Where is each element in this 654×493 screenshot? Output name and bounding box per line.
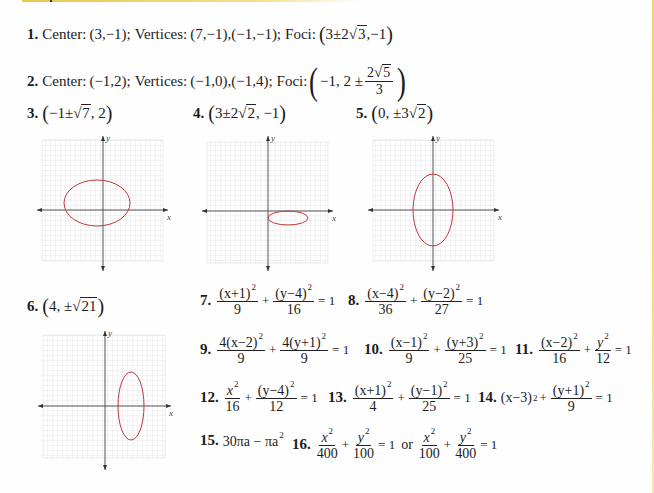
- equals-one: = 1: [454, 390, 471, 406]
- equals-one: = 1: [301, 390, 318, 406]
- equals-one: = 1: [332, 342, 349, 358]
- numerator: (x−4): [367, 286, 398, 301]
- answer-14: 14. (x−3)2 + (y+1)29 = 1: [478, 380, 615, 415]
- denominator: 25: [458, 351, 472, 367]
- radicand: 21: [80, 297, 97, 315]
- expression: 30πa − πa: [223, 434, 278, 449]
- center-label: Center:: [42, 26, 86, 43]
- vertices-label: Vertices:: [135, 73, 187, 90]
- answer-4: 4. ( 3±2 √2 , −1 ): [193, 103, 286, 123]
- vertices-value: (−1,0),(−1,4);: [190, 73, 272, 90]
- left-paren: (: [309, 62, 318, 100]
- left-paren: (: [208, 103, 215, 123]
- graph-5: x y: [360, 130, 505, 280]
- answer-number: 11.: [515, 341, 533, 358]
- denominator: 16: [226, 399, 240, 415]
- or-text: or: [401, 437, 413, 453]
- radicand: 3: [357, 25, 367, 43]
- prefix: 0, ±3: [378, 105, 409, 122]
- suffix: , 2: [91, 105, 106, 122]
- sqrt-icon: √: [349, 26, 357, 43]
- denominator: 400: [317, 446, 338, 462]
- squared-term: (x−3): [501, 390, 532, 406]
- svg-text:x: x: [166, 212, 171, 222]
- exponent: 2: [308, 282, 313, 292]
- answer-number: 12.: [200, 389, 219, 406]
- center-value: (−1,2);: [89, 73, 130, 90]
- denominator: 12: [269, 399, 283, 415]
- exponent: 2: [251, 282, 256, 292]
- exponent: 2: [290, 379, 295, 389]
- denominator: 9: [406, 351, 413, 367]
- left-paren: (: [371, 103, 378, 123]
- foci-prefix: 3±2: [326, 26, 349, 43]
- answer-9: 9. 4(x−2)29 + 4(y+1)29 = 1: [200, 332, 351, 367]
- numerator: (y+3): [447, 335, 478, 350]
- denominator: 25: [422, 399, 436, 415]
- answer-6: 6. ( 4, ± √21 ): [27, 296, 104, 316]
- denominator: 3: [376, 82, 383, 98]
- exponent: 2: [467, 426, 472, 436]
- denominator: 100: [419, 446, 440, 462]
- svg-text:y: y: [435, 133, 440, 143]
- graph-6: x y: [32, 325, 177, 480]
- answer-8: 8. (x−4)236 + (y−2)227 = 1: [348, 283, 485, 318]
- equals-one: = 1: [480, 437, 497, 453]
- graph-3: x y: [30, 130, 175, 280]
- right-paren: ): [397, 62, 406, 100]
- sqrt-icon: √: [72, 298, 80, 315]
- numerator: (y−4): [258, 383, 289, 398]
- numerator: (y−1): [411, 383, 442, 398]
- exponent: 2: [604, 331, 609, 341]
- graph-4: x y: [195, 130, 340, 280]
- numerator: (y+1): [553, 383, 584, 398]
- denominator: 400: [455, 446, 476, 462]
- vertices-value: (7,−1),(−1,−1);: [190, 26, 281, 43]
- answer-1: 1. Center: (3,−1); Vertices: (7,−1),(−1,…: [27, 24, 393, 44]
- answer-number: 13.: [328, 389, 347, 406]
- denominator: 9: [568, 399, 575, 415]
- equals-one: = 1: [596, 390, 613, 406]
- numerator: (x+1): [355, 383, 386, 398]
- svg-text:y: y: [270, 133, 275, 143]
- right-paren: ): [426, 103, 433, 123]
- plus-sign: +: [262, 293, 269, 309]
- center-label: Center:: [42, 73, 86, 90]
- center-value: (3,−1);: [89, 26, 130, 43]
- exponent: 2: [456, 282, 461, 292]
- sqrt-icon: √: [238, 105, 246, 122]
- numerator: x: [227, 383, 233, 398]
- foci-fraction: 2√5 3: [365, 64, 393, 98]
- answer-number: 14.: [478, 389, 497, 406]
- numerator: (y−4): [275, 286, 306, 301]
- svg-text:y: y: [105, 133, 110, 143]
- denominator: 12: [596, 351, 610, 367]
- numerator: x: [424, 430, 430, 445]
- answer-number: 9.: [200, 341, 211, 358]
- sqrt-icon: √: [409, 105, 417, 122]
- denominator: 9: [238, 351, 245, 367]
- denominator: 36: [379, 302, 393, 318]
- exponent: 2: [322, 331, 327, 341]
- answer-number: 8.: [348, 292, 359, 309]
- answer-number: 5.: [356, 105, 367, 122]
- sqrt-icon: √: [73, 105, 81, 122]
- answer-number: 15.: [200, 432, 219, 449]
- foci-suffix: ,−1: [367, 26, 387, 43]
- plus-sign: +: [269, 342, 276, 358]
- equals-one: = 1: [615, 342, 632, 358]
- answer-number: 16.: [292, 436, 311, 453]
- denominator: 9: [301, 351, 308, 367]
- denominator: 16: [287, 302, 301, 318]
- svg-text:x: x: [168, 408, 173, 418]
- plus-sign: +: [342, 437, 349, 453]
- foci-label: Foci:: [285, 26, 316, 43]
- svg-text:x: x: [331, 213, 336, 223]
- equals-one: = 1: [490, 342, 507, 358]
- plus-sign: +: [397, 390, 404, 406]
- exponent: 2: [479, 331, 484, 341]
- radicand: 2: [417, 104, 427, 122]
- numerator: y: [597, 335, 603, 350]
- top-decorative-rule: [22, 0, 362, 2]
- denominator: 4: [370, 399, 377, 415]
